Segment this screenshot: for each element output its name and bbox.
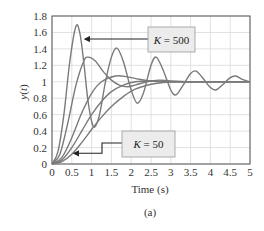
y-tick-label: 1.8 <box>33 10 47 22</box>
y-axis-label: y(t) <box>17 84 30 101</box>
x-tick-label: 5 <box>247 166 253 178</box>
x-tick-label: 3 <box>168 166 174 178</box>
x-tick-label: 0 <box>49 166 55 178</box>
x-tick-label: 3.5 <box>184 166 198 178</box>
x-tick-label: 1 <box>89 166 95 178</box>
x-tick-label: 1.5 <box>105 166 119 178</box>
x-tick-label: 2 <box>128 166 134 178</box>
figure-caption: (a) <box>144 206 157 219</box>
x-tick-label: 2.5 <box>144 166 158 178</box>
y-tick-label: 0.6 <box>33 109 47 121</box>
x-tick-label: 4.5 <box>223 166 237 178</box>
x-axis-label: Time (s) <box>131 183 169 196</box>
y-axis-ticks: 00.20.40.60.811.21.41.61.8 <box>33 10 47 170</box>
y-tick-label: 1.4 <box>33 43 47 55</box>
y-tick-label: 1.6 <box>33 26 47 38</box>
y-tick-label: 1.2 <box>33 59 47 71</box>
y-tick-label: 0.2 <box>33 142 47 154</box>
x-tick-label: 4 <box>208 166 214 178</box>
annotation-label: K = 500 <box>153 34 190 46</box>
x-tick-label: 0.5 <box>65 166 79 178</box>
y-tick-label: 0.4 <box>33 125 47 137</box>
y-tick-label: 0 <box>42 158 48 170</box>
y-tick-label: 0.8 <box>33 92 47 104</box>
y-tick-label: 1 <box>42 76 48 88</box>
step-response-chart: 00.511.522.533.544.55 00.20.40.60.811.21… <box>0 0 264 231</box>
annotation-label: K = 50 <box>132 138 164 150</box>
x-axis-ticks: 00.511.522.533.544.55 <box>49 166 253 178</box>
